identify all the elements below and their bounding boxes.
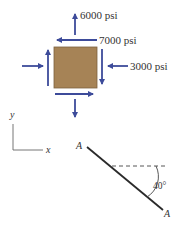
y-axis-label: y (9, 109, 15, 120)
label-7000-psi: 7000 psi (99, 34, 137, 46)
x-axis-label: x (45, 144, 51, 155)
angle-label: 40° (153, 181, 167, 191)
plane-label-top: A (75, 140, 83, 151)
axes-lines (13, 124, 43, 150)
stress-element-square (54, 47, 97, 88)
label-6000-psi: 6000 psi (80, 9, 118, 21)
label-3000-psi: 3000 psi (130, 60, 168, 72)
stress-diagram: 6000 psi 7000 psi 3000 psi y x A A 40° (0, 0, 179, 232)
plane-label-bottom: A (163, 208, 171, 219)
plane-line (87, 147, 163, 210)
